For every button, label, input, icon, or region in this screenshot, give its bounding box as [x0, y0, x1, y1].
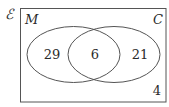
set-c-label: C — [153, 12, 163, 27]
c-only-count: 21 — [132, 47, 149, 62]
venn-diagram: ℰ M C 29 6 21 4 — [0, 0, 169, 107]
m-only-count: 29 — [44, 47, 61, 62]
set-m-label: M — [24, 12, 39, 27]
intersection-count: 6 — [91, 47, 99, 62]
outside-count: 4 — [153, 83, 161, 98]
universal-set-symbol: ℰ — [5, 6, 15, 22]
set-m-ellipse — [27, 27, 120, 83]
